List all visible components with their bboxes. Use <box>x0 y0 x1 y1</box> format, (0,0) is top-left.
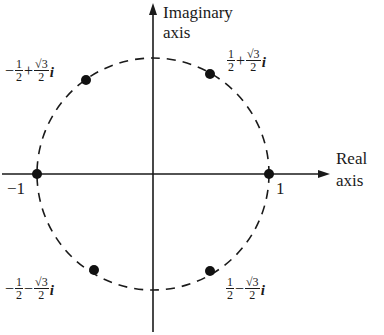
tick-label-neg-one: −1 <box>7 180 25 197</box>
point-upper-right <box>205 69 215 79</box>
label-upper-right: 12+√32i <box>225 48 266 73</box>
real-axis-label-line2: axis <box>336 172 363 189</box>
label-lower-right: 12−√32i <box>224 276 265 301</box>
point-lower-right <box>205 266 215 276</box>
real-axis-label-line1: Real <box>336 150 367 167</box>
point-upper-left <box>81 75 91 85</box>
point-lower-left <box>89 265 99 275</box>
label-upper-left: −12+√32i <box>4 58 54 83</box>
label-lower-left: −12−√32i <box>4 276 54 301</box>
unit-circle-diagram: Imaginary axis Real axis −1 1 −12+√32i 1… <box>0 0 384 335</box>
point-neg-one <box>32 169 42 179</box>
point-one <box>264 169 274 179</box>
tick-label-one: 1 <box>276 180 285 197</box>
imaginary-axis-arrow-icon <box>149 3 157 15</box>
real-axis-arrow-icon <box>318 170 330 178</box>
imaginary-axis-label-line2: axis <box>163 24 190 41</box>
diagram-canvas <box>0 0 384 335</box>
imaginary-axis-label-line1: Imaginary <box>163 4 233 21</box>
